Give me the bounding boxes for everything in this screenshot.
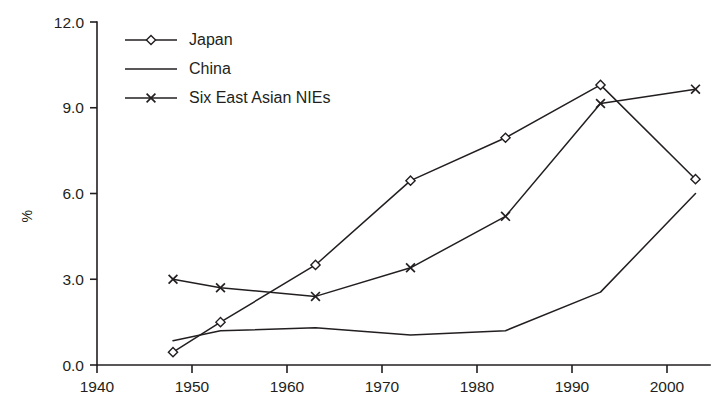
data-point-marker-diamond [216,318,225,327]
x-axis-tick-label: 1960 [270,378,305,395]
series-line [173,89,696,296]
x-axis-tick-label: 1940 [80,378,115,395]
legend-item-six-east-asian-nies: Six East Asian NIEs [125,89,330,106]
data-point-marker-diamond [146,35,155,44]
series-line [173,194,696,341]
series-japan [168,80,700,356]
y-axis-tick-label: 9.0 [62,99,84,116]
chart-legend: JapanChinaSix East Asian NIEs [125,31,330,106]
y-axis-tick-label: 3.0 [62,271,84,288]
data-point-marker-diamond [501,133,510,142]
legend-label: Japan [189,31,233,48]
legend-item-japan: Japan [125,31,233,48]
x-axis-tick-label: 1980 [460,378,495,395]
line-chart: 0.03.06.09.012.0194019501960197019801990… [0,0,716,413]
y-axis-tick-label: 12.0 [54,14,85,31]
legend-label: China [189,60,231,77]
data-point-marker-cross [406,263,415,272]
series-china [173,194,696,341]
series-line [173,85,696,352]
legend-label: Six East Asian NIEs [189,89,330,106]
data-point-marker-diamond [168,348,177,357]
series-six-east-asian-nies [169,85,700,301]
x-axis-tick-label: 2000 [650,378,685,395]
y-axis-tick-label: 0.0 [62,357,84,374]
x-axis-tick-label: 1970 [365,378,400,395]
y-axis-tick-label: 6.0 [62,185,84,202]
chart-axes: 0.03.06.09.012.0194019501960197019801990… [19,14,710,396]
data-point-marker-cross [501,212,510,221]
y-axis-title: % [19,210,35,222]
chart-container: 0.03.06.09.012.0194019501960197019801990… [0,0,716,413]
x-axis-tick-label: 1950 [175,378,210,395]
chart-series [168,80,700,356]
legend-item-china: China [125,60,231,77]
x-axis-tick-label: 1990 [555,378,590,395]
